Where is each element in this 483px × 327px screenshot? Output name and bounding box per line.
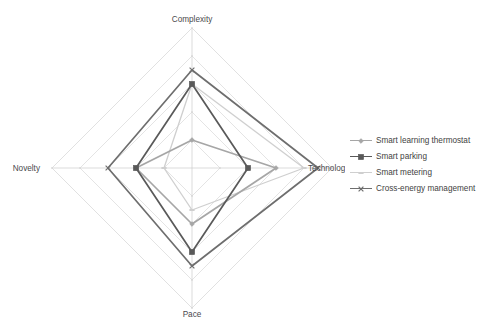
- legend-marker-icon: [350, 135, 372, 146]
- legend-item[interactable]: Cross-energy management: [350, 182, 482, 195]
- data-point-marker: [359, 139, 364, 144]
- legend-item-label: Cross-energy management: [372, 183, 475, 194]
- axis-tick: [219, 167, 221, 169]
- legend-item-label: Smart parking: [372, 151, 427, 162]
- legend-marker-icon: [350, 151, 372, 162]
- radar-chart-plot-area: Complexity Technology Pace Novelty: [0, 0, 345, 327]
- data-point-marker: [189, 81, 194, 86]
- legend-item[interactable]: Smart learning thermostat: [350, 134, 482, 147]
- legend-item-label: Smart learning thermostat: [372, 135, 470, 146]
- chart-legend: Smart learning thermostatSmart parkingSm…: [350, 134, 482, 195]
- axis-label-technology: Technology: [308, 164, 345, 173]
- legend-item[interactable]: Smart metering: [350, 166, 482, 179]
- axis-tick: [79, 167, 81, 169]
- radar-chart-page: Complexity Technology Pace Novelty Smart…: [0, 0, 483, 327]
- axis-tick: [191, 27, 193, 29]
- data-point-marker: [133, 165, 138, 170]
- axis-tick: [191, 279, 193, 281]
- data-point-marker: [245, 165, 250, 170]
- legend-item[interactable]: Smart parking: [350, 150, 482, 163]
- axis-label-pace: Pace: [183, 310, 202, 319]
- data-point-marker: [189, 249, 194, 254]
- radar-chart-svg: Complexity Technology Pace Novelty: [0, 0, 345, 327]
- axis-tick: [191, 307, 193, 309]
- axis-label-complexity: Complexity: [172, 15, 213, 24]
- axis-tick: [51, 167, 53, 169]
- axis-tick: [191, 111, 193, 113]
- axis-label-novelty: Novelty: [13, 164, 41, 173]
- legend-marker-icon: [350, 183, 372, 194]
- data-point-marker: [358, 154, 363, 159]
- axis-tick: [191, 55, 193, 57]
- axis-tick: [191, 195, 193, 197]
- legend-marker-icon: [350, 167, 372, 178]
- legend-item-label: Smart metering: [372, 167, 432, 178]
